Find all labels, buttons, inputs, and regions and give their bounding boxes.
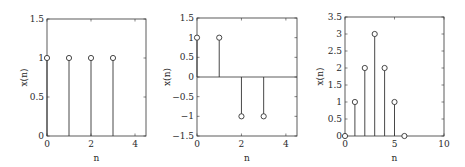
y-tick-label: 1.5 (30, 14, 45, 24)
stem-marker (217, 35, 222, 40)
x-tick-label: 10 (438, 139, 450, 149)
y-axis-label: x(n) (162, 68, 172, 86)
stem-marker (239, 114, 244, 119)
x-tick-label: 4 (283, 139, 289, 149)
y-tick-label: −1 (181, 111, 194, 121)
y-tick-label: 3.5 (328, 12, 343, 22)
y-tick-label: 2.5 (328, 46, 343, 56)
y-axis-label: x(n) (315, 68, 325, 86)
y-tick-label: 1 (336, 97, 342, 107)
y-tick-label: 0.5 (180, 52, 195, 62)
y-tick-label: 2 (336, 63, 342, 73)
x-tick-label: 0 (342, 139, 348, 149)
x-axis-label: n (244, 153, 250, 163)
y-tick-label: 0.5 (30, 92, 45, 102)
stem-marker (44, 55, 49, 60)
y-tick-label: 1 (38, 53, 44, 63)
y-tick-label: −1.5 (172, 131, 194, 141)
stem-marker (110, 55, 115, 60)
y-tick-label: 1.5 (180, 13, 195, 23)
subplot-2: −1.5−1−0.500.511.5024nx(n) (162, 13, 297, 163)
y-axis-label: x(n) (19, 69, 29, 87)
x-tick-label: 0 (194, 139, 200, 149)
stem-marker (372, 31, 377, 36)
stem-marker (66, 55, 71, 60)
x-tick-label: 2 (88, 139, 94, 149)
stem-marker (261, 114, 266, 119)
subplot-3: 00.511.522.533.50510nx(n) (315, 12, 450, 163)
y-tick-label: 1.5 (328, 80, 343, 90)
stem-marker (392, 99, 397, 104)
x-axis-label: n (392, 153, 398, 163)
x-tick-label: 4 (132, 139, 138, 149)
stem-marker (342, 133, 347, 138)
stem-marker (382, 65, 387, 70)
stem-marker (352, 99, 357, 104)
stem-marker (402, 133, 407, 138)
y-tick-label: 1 (188, 33, 194, 43)
stem-marker (362, 65, 367, 70)
axes-frame (47, 19, 146, 136)
y-tick-label: 0.5 (328, 114, 343, 124)
figure: 00.511.5024nx(n)−1.5−1−0.500.511.5024nx(… (0, 0, 465, 167)
y-tick-label: 3 (336, 29, 342, 39)
stem-marker (194, 35, 199, 40)
subplot-1: 00.511.5024nx(n) (19, 14, 146, 163)
stem-marker (88, 55, 93, 60)
y-tick-label: −0.5 (172, 92, 194, 102)
x-tick-label: 0 (44, 139, 50, 149)
x-axis-label: n (94, 153, 100, 163)
x-tick-label: 2 (239, 139, 245, 149)
x-tick-label: 5 (392, 139, 398, 149)
y-tick-label: 0 (188, 72, 194, 82)
stem-plots: 00.511.5024nx(n)−1.5−1−0.500.511.5024nx(… (0, 0, 465, 167)
